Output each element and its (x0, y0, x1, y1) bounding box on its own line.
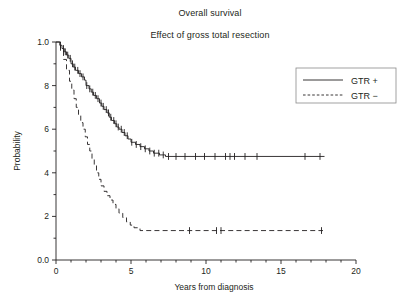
y-tick-label: 8 (44, 81, 49, 91)
x-axis-title: Years from diagnosis (174, 282, 253, 292)
y-tick-label: 2 (44, 211, 49, 221)
series-gtr-positive (56, 42, 325, 160)
y-tick-label: 6 (44, 124, 49, 134)
legend[interactable]: GTR +GTR − (296, 68, 396, 103)
y-tick-label: 1.0 (37, 37, 49, 47)
survival-figure: Overall survival Effect of gross total r… (0, 0, 420, 300)
x-tick-label: 10 (201, 266, 211, 276)
x-tick-label: 15 (276, 266, 286, 276)
survival-curves (56, 42, 325, 234)
legend-box (296, 68, 396, 103)
x-tick-label: 20 (351, 266, 361, 276)
series-gtr-negative (56, 42, 323, 234)
legend-label-gtr-positive: GTR + (351, 76, 378, 86)
x-tick-label: 5 (129, 266, 134, 276)
y-axis-title: Probability (12, 130, 22, 170)
legend-label-gtr-negative: GTR − (351, 91, 378, 101)
x-tick-label: 0 (54, 266, 59, 276)
y-tick-label: 0.0 (37, 255, 49, 265)
survival-curve (56, 42, 323, 231)
kaplan-meier-plot: GTR +GTR − 0.024681.005101520Years from … (0, 0, 420, 300)
survival-curve (56, 42, 325, 156)
y-tick-label: 4 (44, 168, 49, 178)
